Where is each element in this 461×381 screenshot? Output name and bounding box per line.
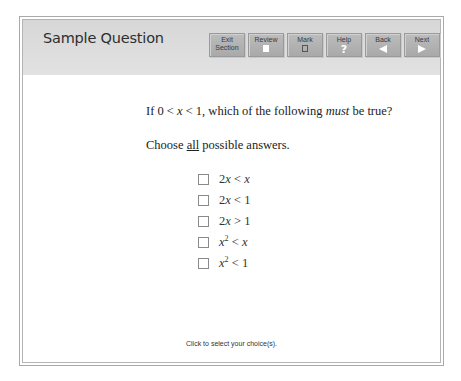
question-instruction: Choose all possible answers. (146, 138, 290, 153)
back-label: Back (366, 36, 400, 44)
choice-text: x2 < 1 (219, 255, 248, 271)
right-arrow-icon (418, 45, 426, 53)
help-button[interactable]: Help ? (326, 33, 362, 57)
instruction-emphasis: all (187, 138, 200, 152)
answer-choice-1[interactable]: 2x < x (198, 169, 250, 190)
answer-choice-3[interactable]: 2x > 1 (198, 211, 250, 232)
checkbox[interactable] (198, 216, 209, 227)
choice-text: x2 < x (219, 234, 247, 250)
question-mark-icon: ? (327, 45, 361, 55)
stem-prefix: If 0 < (146, 104, 177, 118)
exit-label-line1: Exit (210, 36, 244, 44)
mark-box-icon (302, 45, 308, 52)
next-label: Next (405, 36, 439, 44)
mark-button[interactable]: Mark (287, 33, 323, 57)
choice-text: 2x < x (219, 171, 250, 187)
selection-hint: Click to select your choice(s). (23, 340, 440, 347)
question-panel: Sample Question Exit Section Review Mark… (22, 19, 441, 363)
page-title: Sample Question (43, 30, 164, 46)
review-button[interactable]: Review (248, 33, 284, 57)
review-label: Review (249, 36, 283, 44)
answer-choice-5[interactable]: x2 < 1 (198, 253, 250, 274)
checkbox[interactable] (198, 237, 209, 248)
header-bar: Sample Question Exit Section Review Mark… (23, 20, 440, 75)
checkbox[interactable] (198, 258, 209, 269)
stem-suffix: be true? (349, 104, 392, 118)
answer-choice-2[interactable]: 2x < 1 (198, 190, 250, 211)
mark-label: Mark (288, 36, 322, 44)
answer-choices: 2x < x 2x < 1 2x > 1 x2 < x x2 < 1 (198, 169, 250, 274)
next-button[interactable]: Next (404, 33, 440, 57)
answer-choice-4[interactable]: x2 < x (198, 232, 250, 253)
left-arrow-icon (379, 45, 387, 53)
stem-mid: < 1, which of the following (183, 104, 326, 118)
instruction-suffix: possible answers. (199, 138, 290, 152)
review-page-icon (263, 45, 269, 52)
stem-emphasis: must (326, 104, 350, 118)
choice-text: 2x > 1 (219, 213, 250, 229)
checkbox[interactable] (198, 174, 209, 185)
instruction-prefix: Choose (146, 138, 187, 152)
question-stem: If 0 < x < 1, which of the following mus… (146, 104, 392, 119)
choice-text: 2x < 1 (219, 192, 250, 208)
exit-section-button[interactable]: Exit Section (209, 33, 245, 57)
back-button[interactable]: Back (365, 33, 401, 57)
exit-label-line2: Section (210, 44, 244, 52)
checkbox[interactable] (198, 195, 209, 206)
